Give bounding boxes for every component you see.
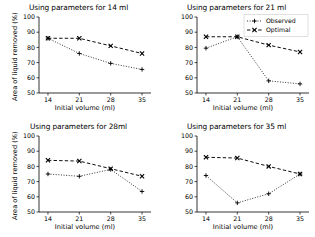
svg-text:90: 90 [185,147,193,154]
svg-text:70: 70 [27,59,35,66]
svg-text:14: 14 [44,215,52,222]
panel-14ml: Using parameters for 14 ml 5060708090100… [0,0,157,118]
y-axis-label: Area of liquid removed (%) [11,131,19,220]
plot-area-28ml: 506070809010014212835 [0,119,157,237]
panel-35ml: Using parameters for 35 ml 5060708090100… [158,119,315,237]
plot-svg-35ml: 506070809010014212835 [158,119,315,237]
svg-text:50: 50 [185,208,193,215]
svg-text:60: 60 [27,193,35,200]
svg-text:28: 28 [265,215,273,222]
svg-text:90: 90 [185,28,193,35]
panel-21ml: Using parameters for 21 ml 5060708090100… [158,0,315,118]
svg-text:100: 100 [181,132,193,139]
y-axis-label: Area of liquid removed (%) [11,12,19,101]
svg-text:80: 80 [27,163,35,170]
svg-text:80: 80 [185,163,193,170]
svg-text:70: 70 [185,178,193,185]
svg-text:21: 21 [75,215,83,222]
svg-text:21: 21 [75,96,83,103]
legend-label-optimal: Optimal [266,26,291,34]
svg-text:100: 100 [23,132,35,139]
svg-text:35: 35 [138,215,146,222]
svg-text:50: 50 [27,208,35,215]
svg-text:70: 70 [27,178,35,185]
svg-text:60: 60 [185,193,193,200]
svg-text:80: 80 [27,44,35,51]
svg-text:60: 60 [185,74,193,81]
svg-text:28: 28 [107,96,115,103]
svg-text:14: 14 [202,96,210,103]
figure-multi-panel-line-charts: Using parameters for 14 ml 5060708090100… [0,0,315,237]
x-axis-label: Initial volume (ml) [193,223,293,231]
plot-svg-21ml: 506070809010014212835ObservedOptimal [158,0,315,118]
svg-text:35: 35 [296,215,304,222]
svg-text:80: 80 [185,44,193,51]
plot-svg-14ml: 506070809010014212835 [0,0,157,118]
x-axis-label: Initial volume (ml) [35,104,135,112]
svg-text:50: 50 [185,89,193,96]
legend-label-observed: Observed [266,17,296,24]
svg-text:70: 70 [185,59,193,66]
plot-area-14ml: 506070809010014212835 [0,0,157,118]
svg-text:21: 21 [233,96,241,103]
svg-text:28: 28 [265,96,273,103]
svg-text:60: 60 [27,74,35,81]
plot-area-21ml: 506070809010014212835ObservedOptimal [158,0,315,118]
svg-text:14: 14 [44,96,52,103]
svg-text:100: 100 [181,13,193,20]
svg-text:28: 28 [107,215,115,222]
svg-text:35: 35 [296,96,304,103]
svg-text:35: 35 [138,96,146,103]
plot-svg-28ml: 506070809010014212835 [0,119,157,237]
svg-text:14: 14 [202,215,210,222]
x-axis-label: Initial volume (ml) [193,104,293,112]
svg-text:90: 90 [27,147,35,154]
svg-text:21: 21 [233,215,241,222]
x-axis-label: Initial volume (ml) [35,223,135,231]
svg-text:100: 100 [23,13,35,20]
panel-28ml: Using parameters for 28ml 50607080901001… [0,119,157,237]
plot-area-35ml: 506070809010014212835 [158,119,315,237]
svg-text:90: 90 [27,28,35,35]
svg-text:50: 50 [27,89,35,96]
